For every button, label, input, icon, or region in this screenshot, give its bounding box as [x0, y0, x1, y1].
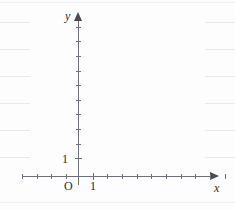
y-axis-tick — [76, 41, 81, 42]
y-axis-tick — [76, 114, 81, 115]
y-axis-tick — [76, 100, 81, 101]
y-axis-tick — [76, 27, 81, 28]
ruled-line — [205, 76, 235, 77]
ruled-line — [205, 103, 235, 104]
ruled-line — [205, 22, 235, 23]
y-axis-tick — [76, 56, 81, 57]
x-axis-tick — [137, 174, 138, 179]
x-axis-arrowhead-icon — [210, 172, 219, 180]
x-axis-label: x — [214, 182, 219, 194]
ruled-line — [0, 76, 30, 77]
ruled-line — [0, 2, 235, 3]
figure-canvas: x y O 1 1 — [0, 0, 235, 210]
x-axis-tick — [22, 174, 23, 179]
origin-label: O — [64, 180, 73, 192]
ruled-line — [0, 49, 30, 50]
y-axis-line — [78, 20, 79, 185]
ruled-line — [0, 22, 30, 23]
y-axis-tick — [76, 129, 81, 130]
ruled-line — [0, 157, 30, 158]
x-axis-tick — [122, 174, 123, 179]
y-axis-tick — [76, 71, 81, 72]
x-axis-tick — [37, 174, 38, 179]
y-axis-label: y — [65, 10, 70, 22]
y-axis-arrowhead-icon — [74, 12, 82, 21]
x-axis-unit-tick-label: 1 — [90, 180, 96, 192]
x-axis-tick — [166, 174, 167, 179]
ruled-line — [0, 202, 235, 203]
y-axis-unit-tick-label: 1 — [62, 153, 68, 165]
x-axis-tick — [51, 174, 52, 179]
x-axis-tick — [225, 174, 226, 179]
x-axis-tick — [210, 174, 211, 179]
ruled-line — [0, 103, 30, 104]
ruled-line — [205, 157, 235, 158]
x-axis-tick — [107, 174, 108, 179]
ruled-line — [0, 130, 30, 131]
y-axis-tick — [76, 85, 81, 86]
x-axis-tick — [195, 174, 196, 179]
ruled-line — [205, 49, 235, 50]
x-axis-tick — [151, 174, 152, 179]
y-axis-unit-tick — [75, 158, 82, 159]
y-axis-tick — [76, 144, 81, 145]
ruled-line — [205, 130, 235, 131]
x-axis-tick — [181, 174, 182, 179]
